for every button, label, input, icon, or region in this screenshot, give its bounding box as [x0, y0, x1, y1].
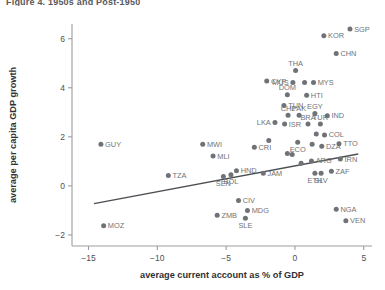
scatter-chart: Figure 4. 1950s and Post-1950 −20246−15−…: [0, 0, 385, 290]
data-point[interactable]: [234, 168, 239, 173]
data-point[interactable]: [321, 33, 326, 38]
data-point[interactable]: [293, 68, 298, 73]
data-point-label: TUR: [313, 113, 328, 122]
data-point-label: MWI: [207, 140, 222, 149]
x-tick-label: 5: [361, 253, 366, 263]
data-point[interactable]: [211, 153, 216, 158]
data-point-label: MYS: [318, 78, 334, 87]
data-point[interactable]: [314, 131, 319, 136]
data-point-label: NGA: [340, 205, 356, 214]
data-point-label: CIV: [243, 196, 255, 205]
y-tick-label: 6: [60, 34, 65, 44]
data-point-label: CRI: [259, 143, 272, 152]
x-axis-title: average current account as % of GDP: [140, 270, 304, 280]
data-point-label: SLV: [314, 176, 327, 185]
x-tick-label: −5: [221, 253, 231, 263]
data-point-label: HND: [241, 166, 257, 175]
x-tick-label: −10: [150, 253, 165, 263]
data-point[interactable]: [285, 92, 290, 97]
data-point-label: HTI: [311, 91, 323, 100]
data-point[interactable]: [343, 218, 348, 223]
data-point-label: VEN: [350, 216, 365, 225]
data-point[interactable]: [302, 80, 307, 85]
data-point-label: CHN: [340, 49, 356, 58]
data-point[interactable]: [319, 144, 324, 149]
data-point-label: TTO: [343, 139, 358, 148]
data-point[interactable]: [272, 120, 277, 125]
data-point-label: EGY: [307, 102, 323, 111]
data-point[interactable]: [290, 152, 295, 157]
data-point[interactable]: [98, 142, 103, 147]
data-point-label: ARG: [316, 156, 332, 165]
y-tick-label: 4: [60, 83, 65, 93]
data-point-label: IRN: [345, 155, 358, 164]
data-point[interactable]: [306, 122, 311, 127]
plot-canvas: −20246−15−10−505average current account …: [0, 0, 385, 290]
data-point-label: SGP: [354, 25, 370, 34]
data-point[interactable]: [304, 93, 309, 98]
data-point[interactable]: [318, 122, 323, 127]
data-point[interactable]: [252, 145, 257, 150]
data-point[interactable]: [264, 78, 269, 83]
data-point[interactable]: [309, 158, 314, 163]
data-point[interactable]: [338, 156, 343, 161]
data-point-label: ISR: [289, 120, 301, 129]
data-point-label: LKA: [257, 118, 271, 127]
x-tick-label: 0: [293, 253, 298, 263]
y-tick-label: 0: [60, 181, 65, 191]
data-point[interactable]: [166, 173, 171, 178]
x-tick-label: −15: [81, 253, 96, 263]
data-point[interactable]: [200, 142, 205, 147]
y-tick-label: −2: [55, 230, 65, 240]
data-point-label: MDG: [252, 206, 269, 215]
data-point[interactable]: [334, 207, 339, 212]
y-axis-title: average per capita GDP growth: [8, 67, 18, 204]
data-point[interactable]: [285, 151, 290, 156]
data-point-label: GUY: [105, 140, 121, 149]
data-point[interactable]: [347, 26, 352, 31]
data-point-label: PAK: [292, 104, 306, 113]
data-point-label: BOL: [224, 177, 239, 186]
data-point-label: DZA: [326, 142, 341, 151]
data-point-label: KOR: [328, 31, 344, 40]
data-point[interactable]: [329, 169, 334, 174]
data-point[interactable]: [245, 208, 250, 213]
data-point[interactable]: [215, 213, 220, 218]
data-point-label: ZMB: [221, 211, 237, 220]
data-point-label: COL: [329, 130, 344, 139]
data-point[interactable]: [101, 223, 106, 228]
data-point-label: DOM: [279, 83, 296, 92]
data-point[interactable]: [311, 80, 316, 85]
data-point-label: ZAF: [336, 167, 350, 176]
data-point-label: THA: [288, 59, 303, 68]
data-point[interactable]: [322, 132, 327, 137]
data-point[interactable]: [261, 171, 266, 176]
data-point-label: TZA: [173, 171, 187, 180]
y-tick-label: 2: [60, 132, 65, 142]
data-point[interactable]: [299, 161, 304, 166]
data-point[interactable]: [286, 113, 291, 118]
data-point[interactable]: [236, 198, 241, 203]
data-point[interactable]: [282, 122, 287, 127]
data-point-label: JAM: [267, 169, 282, 178]
data-point[interactable]: [310, 142, 315, 147]
data-point-label: SLE: [238, 221, 252, 230]
data-point[interactable]: [334, 51, 339, 56]
data-point-label: IND: [331, 111, 344, 120]
data-point-label: MOZ: [108, 221, 125, 230]
data-point-label: MLI: [217, 152, 229, 161]
